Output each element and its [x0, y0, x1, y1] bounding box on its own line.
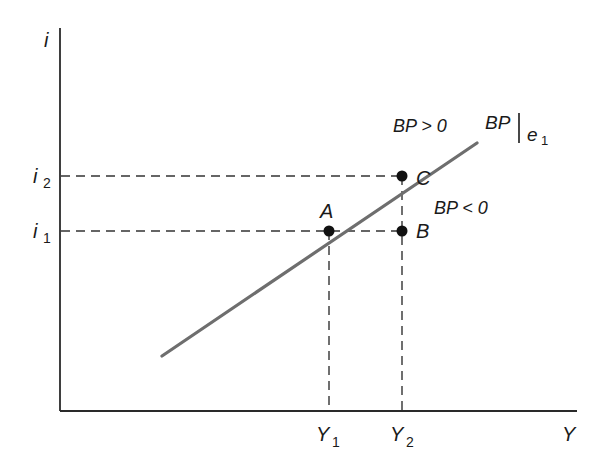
svg-text:Y: Y: [390, 423, 405, 445]
point-a: [324, 226, 335, 237]
x-axis-label: Y: [562, 423, 577, 445]
y-tick-i2: i 2: [33, 165, 51, 191]
svg-text:i: i: [33, 220, 38, 242]
guide-lines: [61, 176, 402, 411]
bp-curve-diagram: i Y i 2 i 1 Y 1 Y 2 A B C BP > 0 BP < 0 …: [0, 0, 606, 467]
svg-text:1: 1: [332, 434, 340, 450]
y-axis-label: i: [44, 29, 49, 51]
svg-text:i: i: [33, 165, 38, 187]
point-b-label: B: [416, 220, 429, 242]
curve-label: BP e 1: [485, 112, 548, 148]
svg-text:2: 2: [406, 434, 414, 450]
y-tick-i1: i 1: [33, 220, 51, 246]
region-below-label: BP < 0: [434, 198, 488, 218]
svg-text:2: 2: [43, 175, 51, 191]
region-above-label: BP > 0: [393, 116, 447, 136]
x-tick-y1: Y 1: [316, 423, 340, 450]
point-c: [397, 171, 408, 182]
svg-text:1: 1: [43, 230, 51, 246]
svg-text:1: 1: [541, 133, 548, 148]
svg-text:BP: BP: [485, 112, 511, 133]
point-b: [397, 226, 408, 237]
svg-text:e: e: [527, 124, 538, 145]
point-a-label: A: [319, 200, 333, 222]
point-c-label: C: [416, 167, 431, 189]
x-tick-y2: Y 2: [390, 423, 414, 450]
svg-text:Y: Y: [316, 423, 331, 445]
